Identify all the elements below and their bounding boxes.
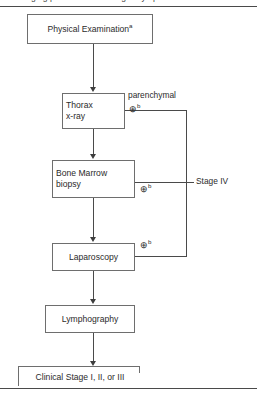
positive-marker-laparoscopy: ⊕b (140, 240, 151, 250)
node-physical-examination-label: Physical Examination (47, 24, 129, 34)
positive-marker-marrow: ⊕b (140, 184, 151, 194)
node-thorax-xray: Thorax x-ray (62, 93, 125, 129)
node-thorax-xray-line1: Thorax (66, 100, 93, 110)
node-lymphography-label: Lymphography (62, 314, 119, 325)
arrowhead-laparoscopy-to-lymphography (90, 299, 96, 304)
node-thorax-xray-line2: x-ray (66, 111, 121, 122)
branch-laparoscopy-positive (135, 256, 186, 257)
footnote-marker-a: a (129, 22, 132, 29)
clipped-caption-fragment: Staging procedures in Hodgkin lymphoma (18, 0, 243, 6)
node-bone-marrow-biopsy-line1: Bone Marrow (56, 168, 107, 178)
node-laparoscopy: Laparoscopy (52, 243, 135, 271)
node-lymphography: Lymphography (45, 305, 135, 333)
connector-lymphography-to-terminal (93, 333, 94, 361)
connector-marrow-to-laparoscopy (93, 198, 94, 237)
connector-physical-to-thorax (93, 44, 94, 88)
connector-thorax-to-marrow (93, 129, 94, 155)
node-bone-marrow-biopsy: Bone Marrow biopsy (52, 160, 135, 198)
frame-rule-bottom (0, 388, 257, 389)
connector-laparoscopy-to-lymphography (93, 271, 94, 299)
branch-marrow-positive (135, 182, 186, 183)
node-bone-marrow-biopsy-line2: biopsy (56, 179, 131, 190)
arrowhead-marrow-to-laparoscopy (90, 237, 96, 242)
node-physical-examination: Physical Examinationa (27, 14, 153, 44)
frame-rule-top (0, 6, 257, 7)
arrowhead-physical-to-thorax (90, 87, 96, 92)
terminal-clinical-stage: Clinical Stage I, II, or III (18, 366, 140, 386)
collector-line-stage-iv (186, 110, 187, 257)
node-laparoscopy-label: Laparoscopy (69, 252, 118, 263)
staging-flowchart-figure: Staging procedures in Hodgkin lymphoma P… (0, 0, 257, 400)
outcome-label-stage-iv: Stage IV (196, 176, 228, 186)
terminal-clinical-stage-label: Clinical Stage I, II, or III (19, 372, 141, 382)
positive-marker-thorax: ⊕b (129, 104, 140, 114)
arrowhead-thorax-to-marrow (90, 154, 96, 159)
collector-stub-stage-iv (186, 182, 194, 183)
branch-label-parenchymal: parenchymal (128, 90, 176, 100)
